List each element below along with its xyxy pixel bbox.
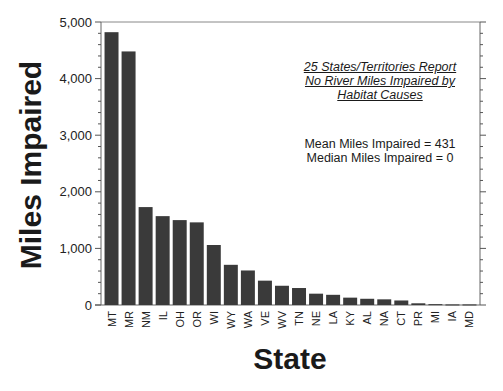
annotation-note: 25 States/Territories Report No River Mi…: [280, 60, 480, 102]
bar-oh: [173, 220, 187, 305]
bar-nm: [139, 207, 153, 305]
y-tick-label: 0: [85, 298, 92, 313]
bar-mr: [122, 51, 136, 305]
bar-pr: [411, 303, 425, 305]
x-tick-label: PR: [412, 311, 424, 326]
x-axis-label: State: [253, 342, 326, 376]
x-tick-label: IL: [157, 311, 169, 320]
bar-ve: [258, 281, 272, 305]
x-tick-label: CT: [395, 311, 407, 326]
x-tick-label: MD: [463, 311, 475, 328]
bar-or: [190, 222, 204, 305]
bar-wa: [241, 270, 255, 305]
x-tick-label: AL: [361, 311, 373, 324]
bar-mi: [428, 304, 442, 305]
bar-chart: 01,0002,0003,0004,0005,000MTMRNMILOHORWI…: [0, 0, 503, 391]
bar-al: [360, 299, 374, 305]
x-tick-label: MT: [106, 311, 118, 327]
bar-na: [377, 299, 391, 305]
x-tick-label: IA: [446, 310, 458, 321]
y-axis-label: Miles Impaired: [14, 61, 48, 269]
bar-md: [462, 304, 476, 305]
bar-tn: [292, 288, 306, 305]
bar-wi: [207, 245, 221, 305]
y-tick-label: 2,000: [59, 184, 92, 199]
x-tick-label: NA: [378, 310, 390, 326]
x-tick-label: MI: [429, 311, 441, 323]
x-tick-label: OR: [191, 311, 203, 328]
x-tick-label: WA: [242, 310, 254, 328]
bar-la: [326, 295, 340, 305]
bar-ky: [343, 298, 357, 305]
note-line-2: No River Miles Impaired by: [280, 74, 480, 88]
y-tick-label: 3,000: [59, 128, 92, 143]
x-tick-label: TN: [293, 311, 305, 326]
x-tick-label: WV: [276, 310, 288, 328]
x-tick-label: WI: [208, 311, 220, 324]
x-tick-label: NE: [310, 311, 322, 326]
x-tick-label: OH: [174, 311, 186, 328]
bar-ne: [309, 294, 323, 305]
bar-wy: [224, 265, 238, 305]
bar-ct: [394, 300, 408, 305]
summary-stats: Mean Miles Impaired = 431 Median Miles I…: [280, 137, 480, 165]
y-tick-label: 1,000: [59, 241, 92, 256]
bar-il: [156, 216, 170, 305]
bar-wv: [275, 286, 289, 305]
bar-mt: [105, 32, 119, 305]
bar-ia: [445, 304, 459, 305]
x-tick-label: MR: [123, 311, 135, 328]
note-line-1: 25 States/Territories Report: [280, 60, 480, 74]
x-tick-label: VE: [259, 311, 271, 326]
y-tick-label: 4,000: [59, 71, 92, 86]
mean-stat: Mean Miles Impaired = 431: [280, 137, 480, 151]
median-stat: Median Miles Impaired = 0: [280, 151, 480, 165]
x-tick-label: WY: [225, 310, 237, 328]
y-tick-label: 5,000: [59, 15, 92, 30]
x-tick-label: LA: [327, 310, 339, 324]
note-line-3: Habitat Causes: [280, 88, 480, 102]
x-tick-label: KY: [344, 310, 356, 325]
x-tick-label: NM: [140, 311, 152, 328]
